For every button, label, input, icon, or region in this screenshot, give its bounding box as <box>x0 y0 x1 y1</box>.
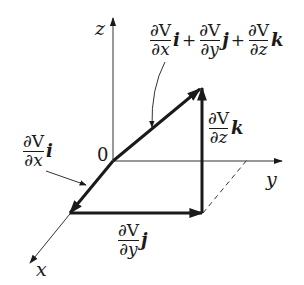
projection-dashed-line <box>203 160 247 213</box>
z-axis-label: z <box>95 19 105 38</box>
fraction-dvdx: ∂V ∂x <box>149 22 172 59</box>
resultant-pointer-arrow <box>152 62 165 127</box>
resultant-label: ∂V ∂x i + ∂V ∂y j + ∂V ∂z k <box>149 22 284 59</box>
fraction-dvdz: ∂V ∂z <box>247 22 270 59</box>
x-component-label: ∂V ∂x i <box>22 133 53 170</box>
x-component-pointer-arrow <box>46 171 86 185</box>
gradient-diagram: z y x 0 ∂V ∂x i + ∂V ∂y j + ∂V ∂z k ∂V ∂… <box>0 0 304 285</box>
unit-vector-j: j <box>141 231 148 249</box>
unit-vector-i: i <box>173 31 180 49</box>
unit-vector-i: i <box>46 142 53 160</box>
unit-vector-k: k <box>231 119 243 137</box>
unit-vector-j: j <box>222 31 229 49</box>
x-axis-label: x <box>36 260 47 279</box>
fraction-dvdy: ∂V ∂y <box>198 22 221 59</box>
vector-resultant <box>113 89 200 161</box>
unit-vector-k: k <box>271 31 283 49</box>
origin-label: 0 <box>97 146 108 164</box>
z-component-label: ∂V ∂z k <box>207 110 244 147</box>
vector-x-component <box>70 161 113 213</box>
y-component-label: ∂V ∂y j <box>117 222 148 259</box>
y-axis-label: y <box>266 170 277 189</box>
plus-sign: + <box>231 32 245 49</box>
plus-sign: + <box>182 32 196 49</box>
